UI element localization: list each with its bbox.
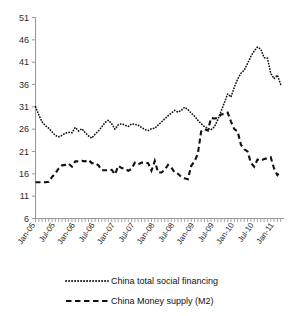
x-tick-label-group: Jul-09 <box>196 221 216 244</box>
x-tick-label: Jul-08 <box>156 221 176 244</box>
x-tick-label-group: Jul-10 <box>236 221 256 244</box>
y-axis <box>32 17 36 219</box>
x-tick-label-group: Jan-05 <box>16 221 38 247</box>
y-tick-label: 51 <box>19 13 29 23</box>
y-tick-label: 16 <box>19 169 29 179</box>
y-tick-label: 21 <box>19 147 29 157</box>
x-tick-label-group: Jul-08 <box>156 221 176 244</box>
series-line-1 <box>36 47 281 138</box>
x-tick-label-group: Jul-07 <box>117 221 137 244</box>
data-series-group <box>36 47 281 182</box>
x-tick-label: Jan-06 <box>55 221 77 247</box>
x-tick-label-group: Jan-11 <box>255 221 276 246</box>
x-tick-label: Jul-07 <box>117 221 137 244</box>
x-tick-label: Jul-05 <box>37 221 57 244</box>
x-tick-label-group: Jul-06 <box>77 221 97 244</box>
x-tick-marks <box>36 219 281 223</box>
y-tick-label: 31 <box>19 102 29 112</box>
x-tick-label-group: Jul-05 <box>37 221 57 244</box>
x-tick-label-group: Jan-06 <box>55 221 77 247</box>
y-tick-label: 26 <box>19 124 29 134</box>
x-tick-label: Jan-10 <box>215 221 237 247</box>
x-tick-label: Jan-08 <box>135 221 157 247</box>
x-tick-label-group: Jan-09 <box>175 221 197 247</box>
x-tick-label: Jul-06 <box>77 221 97 244</box>
chart-legend: China total social financingChina Money … <box>66 276 218 306</box>
x-axis <box>36 219 285 223</box>
x-tick-label-group: Jan-07 <box>95 221 117 247</box>
x-tick-label: Jan-07 <box>95 221 117 247</box>
x-axis-tick-labels: Jan-05Jul-05Jan-06Jul-06Jan-07Jul-07Jan-… <box>16 221 276 247</box>
x-tick-label: Jan-11 <box>255 221 276 246</box>
y-tick-label: 11 <box>20 191 29 201</box>
x-tick-label: Jul-09 <box>196 221 216 244</box>
x-tick-label: Jan-05 <box>16 221 38 247</box>
y-tick-label: 36 <box>19 80 29 90</box>
y-tick-label: 41 <box>19 57 29 67</box>
y-axis-tick-labels: 6111621263136414651 <box>19 13 29 224</box>
x-tick-label-group: Jan-10 <box>215 221 237 247</box>
x-tick-label: Jan-09 <box>175 221 197 247</box>
x-tick-label: Jul-10 <box>236 221 256 244</box>
legend-label-2: China Money supply (M2) <box>111 296 214 306</box>
line-chart: 6111621263136414651 Jan-05Jul-05Jan-06Ju… <box>0 0 300 316</box>
chart-container: 6111621263136414651 Jan-05Jul-05Jan-06Ju… <box>0 0 300 316</box>
x-tick-label-group: Jan-08 <box>135 221 157 247</box>
y-tick-label: 46 <box>19 35 29 45</box>
legend-label-1: China total social financing <box>111 276 218 286</box>
series-line-2 <box>36 113 281 183</box>
